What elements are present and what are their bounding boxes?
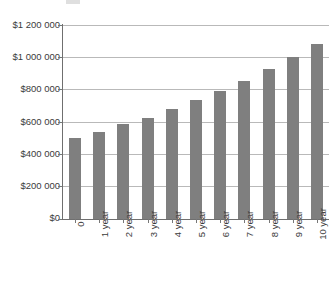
x-tick-label: 3 year: [148, 211, 159, 237]
x-axis-tick-labels: 0 1 year 2 year 3 year 4 year 5 year 6 y…: [63, 222, 329, 283]
y-tick-mark: [58, 154, 62, 155]
bar-slot: [305, 25, 329, 219]
x-tick-label: 1 year: [99, 211, 110, 237]
y-tick-mark: [58, 219, 62, 220]
x-tick-label: 7 year: [244, 211, 255, 237]
y-tick-mark: [58, 57, 62, 58]
y-tick-label: $800 000: [2, 84, 60, 94]
x-tick-label: 9 year: [293, 211, 304, 237]
x-tick-slot: 5 year: [184, 222, 208, 283]
bar-6-year[interactable]: [214, 91, 226, 219]
bar-9-year[interactable]: [287, 57, 299, 219]
x-tick-slot: 7 year: [232, 222, 256, 283]
bar-series: [63, 25, 329, 219]
bar-slot: [232, 25, 256, 219]
x-tick-slot: 0: [63, 222, 87, 283]
x-tick-slot: 6 year: [208, 222, 232, 283]
bar-slot: [160, 25, 184, 219]
bar-1-year[interactable]: [93, 132, 105, 219]
x-tick-label: 4 year: [172, 211, 183, 237]
y-axis-tick-labels: $1 200 000 $1 000 000 $800 000 $600 000 …: [0, 0, 60, 283]
x-tick-slot: 3 year: [136, 222, 160, 283]
bar-slot: [111, 25, 135, 219]
y-tick-mark: [58, 25, 62, 26]
bar-slot: [184, 25, 208, 219]
y-tick-label: $400 000: [2, 149, 60, 159]
y-tick-label: $200 000: [2, 181, 60, 191]
bar-slot: [208, 25, 232, 219]
bar-slot: [136, 25, 160, 219]
bar-slot: [63, 25, 87, 219]
x-tick-label: 0: [75, 221, 86, 226]
bar-chart: $1 200 000 $1 000 000 $800 000 $600 000 …: [0, 0, 331, 283]
bar-0[interactable]: [69, 138, 81, 219]
y-tick-label: $600 000: [2, 117, 60, 127]
x-tick-slot: 8 year: [257, 222, 281, 283]
bar-2-year[interactable]: [117, 124, 129, 219]
x-tick-label: 6 year: [220, 211, 231, 237]
x-tick-label: 2 year: [123, 211, 134, 237]
y-tick-label: $0: [2, 213, 60, 223]
bar-5-year[interactable]: [190, 100, 202, 219]
y-tick-mark: [58, 186, 62, 187]
x-tick-label: 8 year: [269, 211, 280, 237]
clipped-title-remnant: [66, 0, 80, 4]
bar-7-year[interactable]: [238, 81, 250, 219]
x-tick-label: 10 year: [317, 208, 328, 240]
bar-slot: [87, 25, 111, 219]
bar-3-year[interactable]: [142, 118, 154, 219]
x-tick-slot: 10 year: [305, 222, 329, 283]
y-tick-mark: [58, 122, 62, 123]
x-tick-slot: 9 year: [281, 222, 305, 283]
bar-4-year[interactable]: [166, 109, 178, 219]
bar-8-year[interactable]: [263, 69, 275, 219]
y-tick-label: $1 000 000: [2, 52, 60, 62]
y-tick-label: $1 200 000: [2, 20, 60, 30]
bar-slot: [281, 25, 305, 219]
x-tick-slot: 1 year: [87, 222, 111, 283]
bar-slot: [257, 25, 281, 219]
x-tick-slot: 2 year: [111, 222, 135, 283]
x-tick-slot: 4 year: [160, 222, 184, 283]
x-tick-label: 5 year: [196, 211, 207, 237]
bar-10-year[interactable]: [311, 44, 323, 219]
y-tick-mark: [58, 89, 62, 90]
